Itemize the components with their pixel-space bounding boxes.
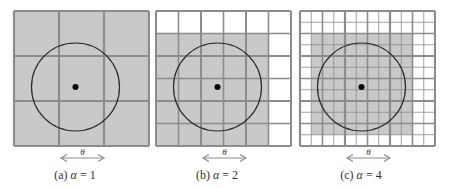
grid-diagram-a: θ bbox=[0, 0, 150, 168]
caption-c-value: = 4 bbox=[363, 168, 382, 182]
caption-a-value: = 1 bbox=[77, 168, 96, 182]
center-point bbox=[359, 84, 365, 90]
panel-b: θ (b) α = 2 bbox=[142, 0, 292, 188]
shaded-region bbox=[14, 11, 149, 146]
theta-label: θ bbox=[366, 147, 371, 157]
caption-b-prefix: (b) bbox=[196, 168, 213, 182]
panel-c: θ (c) α = 4 bbox=[286, 0, 436, 188]
center-point bbox=[73, 84, 79, 90]
caption-c-prefix: (c) bbox=[340, 168, 356, 182]
caption-a-prefix: (a) bbox=[54, 168, 70, 182]
caption-a: (a) α = 1 bbox=[0, 168, 150, 183]
grid-diagram-b: θ bbox=[142, 0, 292, 168]
theta-label: θ bbox=[222, 147, 227, 157]
grid-diagram-c: θ bbox=[286, 0, 436, 168]
center-point bbox=[215, 84, 221, 90]
panel-a: θ (a) α = 1 bbox=[0, 0, 150, 188]
caption-b-value: = 2 bbox=[219, 168, 238, 182]
caption-b: (b) α = 2 bbox=[142, 168, 292, 183]
caption-c: (c) α = 4 bbox=[286, 168, 436, 183]
shaded-region bbox=[156, 34, 269, 147]
theta-label: θ bbox=[80, 147, 85, 157]
